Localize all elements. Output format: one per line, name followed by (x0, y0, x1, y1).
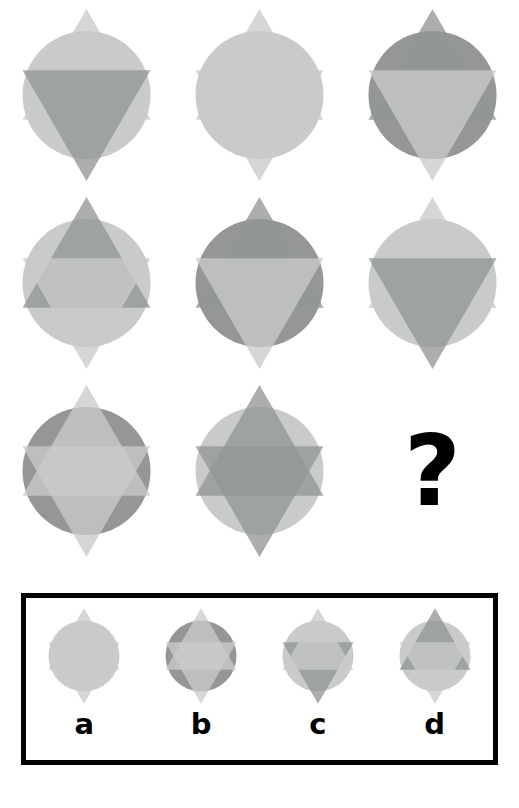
option-d-figure (387, 604, 483, 708)
matrix-cell-r2c1-figure (0, 189, 173, 377)
option-a-figure (36, 604, 132, 708)
matrix-cell-missing[interactable]: ? (346, 377, 519, 565)
question-mark: ? (404, 422, 461, 520)
option-c-figure (270, 604, 366, 708)
option-c[interactable]: c (269, 604, 367, 739)
matrix-cell-r3c1-figure (0, 377, 173, 565)
answer-options-panel: abcd (21, 593, 498, 765)
matrix-cell-r2c2-figure (173, 189, 346, 377)
option-b-figure (153, 604, 249, 708)
matrix-cell-r2c1 (0, 189, 173, 377)
matrix-cell-r1c3-figure (346, 1, 519, 189)
matrix-cell-r2c3-figure (346, 189, 519, 377)
matrix-cell-r1c2 (173, 1, 346, 189)
matrix-cell-r1c2-figure (173, 1, 346, 189)
option-b[interactable]: b (152, 604, 250, 739)
matrix-cell-r1c3 (346, 1, 519, 189)
option-a[interactable]: a (35, 604, 133, 739)
matrix-cell-r2c3 (346, 189, 519, 377)
option-d-label: d (424, 710, 445, 739)
matrix-cell-r3c1 (0, 377, 173, 565)
option-b-label: b (191, 710, 212, 739)
matrix-cell-r1c1 (0, 1, 173, 189)
matrix-cell-r1c1-figure (0, 1, 173, 189)
option-d[interactable]: d (386, 604, 484, 739)
puzzle-stage: ? abcd (0, 0, 519, 808)
option-a-label: a (75, 710, 95, 739)
option-c-label: c (309, 710, 326, 739)
matrix-cell-r3c2-figure (173, 377, 346, 565)
matrix-cell-r2c2 (173, 189, 346, 377)
answer-options-row: abcd (26, 598, 493, 760)
matrix-cell-r3c2 (173, 377, 346, 565)
